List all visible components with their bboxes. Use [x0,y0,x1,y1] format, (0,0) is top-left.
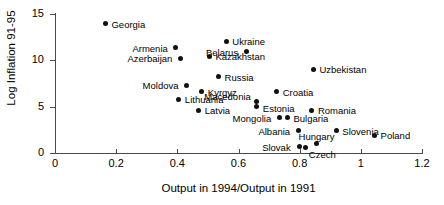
data-point-label: Uzbekistan [319,65,366,75]
data-point-label: Czech [309,150,336,160]
scatter-chart: Log Inflation 91-95 Output in 1994/Outpu… [0,0,444,205]
data-point-label: Croatia [283,88,314,98]
data-point-label: Bulgaria [293,114,328,124]
data-point-label: Russia [225,73,254,83]
data-point-label: Estonia [263,104,295,114]
data-point-label: Georgia [111,20,145,30]
x-tick-label: 1.2 [402,158,442,169]
x-tick-label: 0.2 [96,158,136,169]
data-point-label: Kazakhstan [215,52,265,62]
data-point-label: Poland [381,131,411,141]
data-point-marker [184,83,189,88]
data-point-marker [224,39,229,44]
data-point-marker [311,67,316,72]
x-axis-title: Output in 1994/Output in 1991 [55,182,422,194]
data-point-label: Albania [0,127,290,137]
data-point-label: Slovak [0,143,291,153]
data-point-label: Mongolia [0,114,271,124]
y-tick-label: 15 [0,8,44,19]
data-point-label: Hungary [286,132,346,142]
data-point-label: Macedonia [0,92,251,102]
data-point-label: Ukraine [232,37,265,47]
x-tick-label: 1 [341,158,381,169]
x-tick-label: 0.4 [157,158,197,169]
data-point-marker [207,54,212,59]
data-point-marker [372,133,377,138]
y-tick-label: 5 [0,101,44,112]
x-tick-label: 0 [35,158,75,169]
data-point-marker [277,115,282,120]
x-tick-mark [422,149,423,154]
data-point-marker [196,108,201,113]
x-tick-label: 0.6 [219,158,259,169]
data-point-label: Belarus [0,48,238,58]
data-point-label: Moldova [0,81,179,91]
